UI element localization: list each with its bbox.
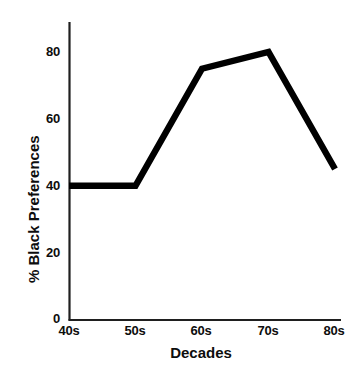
data-series-line (69, 52, 335, 186)
x-tick-label-50s: 50s (113, 324, 157, 337)
x-tick-label-70s: 70s (246, 324, 290, 337)
x-tick-label-40s: 40s (47, 324, 91, 337)
x-axis-title: Decades (139, 345, 263, 361)
y-tick-label-80: 80 (34, 45, 60, 58)
x-tick-label-80s: 80s (312, 324, 352, 337)
x-tick-label-60s: 60s (179, 324, 223, 337)
y-axis-title: % Black Preferences (26, 135, 42, 283)
line-chart-figure: 80 60 40 20 0 40s 50s 60s 70s 80s % Blac… (0, 0, 352, 378)
y-tick-label-60: 60 (34, 112, 60, 125)
